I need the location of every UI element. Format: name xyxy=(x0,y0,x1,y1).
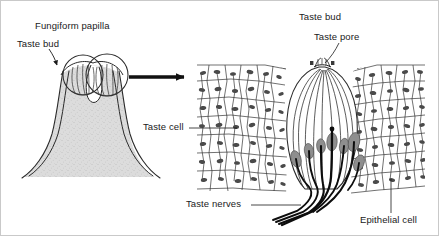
taste-bud-diagram: Fungiform papilla Taste bud Taste bud Ta… xyxy=(0,0,439,236)
label-epithelial-cell: Epithelial cell xyxy=(360,215,417,225)
epithelium-right xyxy=(349,61,429,201)
label-taste-nerves: Taste nerves xyxy=(186,199,241,209)
label-taste-bud-left: Taste bud xyxy=(17,39,59,49)
taste-bud-left-leader xyxy=(49,49,57,65)
epithelium-left xyxy=(195,61,291,201)
fungiform-papilla-panel xyxy=(22,49,160,178)
label-taste-cell: Taste cell xyxy=(143,122,184,132)
taste-pore xyxy=(310,58,334,67)
taste-pore-leader xyxy=(325,43,339,63)
label-taste-pore: Taste pore xyxy=(314,32,359,42)
label-taste-bud-right: Taste bud xyxy=(299,12,341,22)
label-fungiform-papilla: Fungiform papilla xyxy=(35,21,110,31)
